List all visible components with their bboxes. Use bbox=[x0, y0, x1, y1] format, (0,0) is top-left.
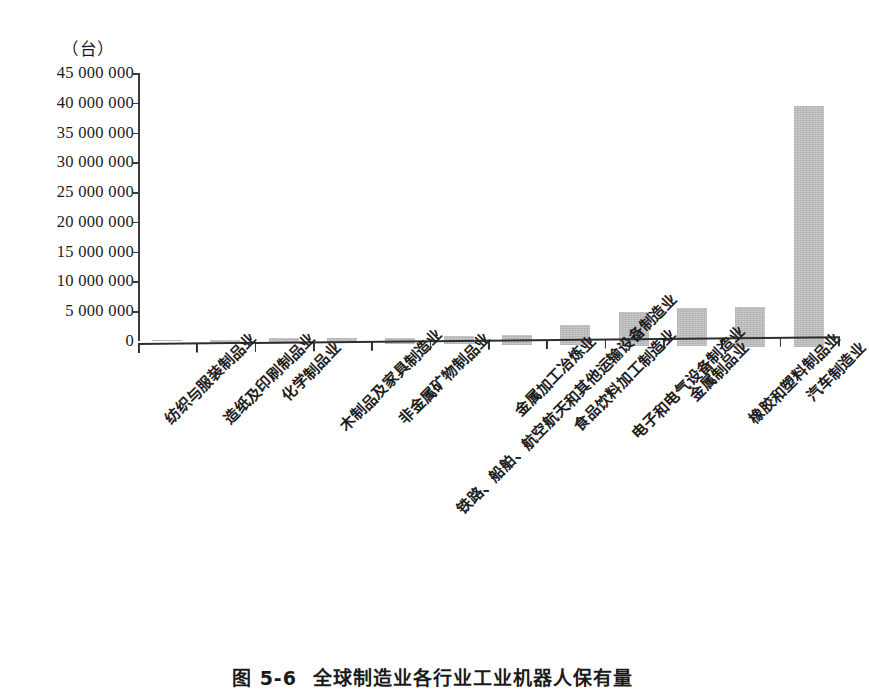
y-axis-tick-label: 45 000 000 bbox=[0, 65, 134, 82]
y-axis-tick-label: 25 000 000 bbox=[0, 184, 134, 201]
y-axis-tick-label-group: 45 000 00040 000 00035 000 00030 000 000… bbox=[0, 60, 134, 352]
y-axis-tick-mark bbox=[132, 192, 139, 194]
y-axis-tick-mark bbox=[132, 222, 139, 224]
bars-layer bbox=[138, 70, 838, 345]
plot-area bbox=[138, 70, 838, 345]
bar-slot bbox=[255, 70, 313, 341]
y-axis-tick-label: 0 bbox=[0, 333, 134, 350]
y-axis-tick-label: 20 000 000 bbox=[0, 214, 134, 231]
y-axis-tick-mark bbox=[132, 252, 139, 254]
figure-caption-text: 全球制造业各行业工业机器人保有量 bbox=[313, 667, 633, 689]
x-axis-tick-mark bbox=[371, 342, 373, 351]
y-axis-tick-label: 30 000 000 bbox=[0, 154, 134, 171]
y-axis-tick-label: 35 000 000 bbox=[0, 124, 134, 141]
y-axis-tick-mark bbox=[132, 311, 139, 313]
y-axis-tick-mark bbox=[132, 281, 139, 283]
bar-slot bbox=[780, 70, 838, 341]
x-axis-tick-mark bbox=[780, 338, 782, 347]
bar-slot bbox=[196, 70, 254, 341]
y-axis-tick-label: 15 000 000 bbox=[0, 243, 134, 260]
bar-slot bbox=[488, 70, 546, 341]
bar-slot bbox=[721, 70, 779, 341]
bar-slot bbox=[371, 70, 429, 341]
bar-slot bbox=[138, 70, 196, 341]
figure-caption-number: 图 5-6 bbox=[232, 667, 297, 689]
y-axis-tick-mark bbox=[132, 73, 139, 75]
y-axis-tick-label: 5 000 000 bbox=[0, 303, 134, 320]
figure-caption: 图 5-6全球制造业各行业工业机器人保有量 bbox=[0, 663, 865, 689]
bar[interactable] bbox=[152, 340, 182, 341]
y-axis-tick-mark bbox=[132, 162, 139, 164]
y-axis-tick-label: 40 000 000 bbox=[0, 95, 134, 112]
bar[interactable] bbox=[794, 106, 824, 348]
y-axis-unit-label: （台） bbox=[62, 36, 115, 60]
bar-slot bbox=[546, 70, 604, 341]
y-axis-tick-mark bbox=[132, 103, 139, 105]
bar-slot bbox=[430, 70, 488, 341]
x-axis-tick-mark bbox=[138, 344, 140, 353]
x-axis-tick-mark bbox=[546, 340, 548, 349]
y-axis-tick-mark bbox=[132, 133, 139, 135]
y-axis-tick-label: 10 000 000 bbox=[0, 273, 134, 290]
x-axis-tick-mark bbox=[196, 343, 198, 352]
bar-slot bbox=[313, 70, 371, 341]
